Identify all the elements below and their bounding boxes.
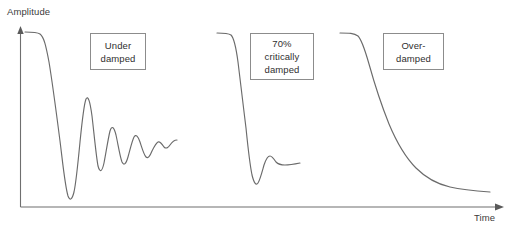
y-axis-label: Amplitude [7,6,50,17]
callout-over-damped: Over- damped [383,33,444,70]
y-axis [17,26,23,207]
callout-under-damped: Under damped [90,33,146,70]
callout-critically-damped-line-2: critically [265,50,300,63]
callout-over-damped-line-2: damped [396,52,431,65]
arrow-up-icon [17,26,23,34]
callout-critically-damped: 70% critically damped [250,33,314,80]
arrow-right-icon [495,204,504,211]
callout-under-damped-line-2: damped [101,52,136,65]
callout-under-damped-line-1: Under [105,39,131,52]
callout-critically-damped-line-3: damped [265,63,300,76]
callout-critically-damped-line-1: 70% [272,37,291,50]
callout-over-damped-line-1: Over- [401,39,425,52]
damping-response-diagram: Amplitude Time Under damped 70% critical… [0,0,514,229]
x-axis [21,204,505,211]
x-axis-label: Time [474,212,495,223]
